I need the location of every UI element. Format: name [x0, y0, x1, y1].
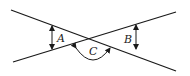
angle-b-label: B	[123, 33, 132, 46]
intersecting-lines-diagram: A B C	[0, 0, 190, 76]
angle-c-label: C	[89, 45, 98, 58]
angle-a-label: A	[56, 32, 65, 45]
